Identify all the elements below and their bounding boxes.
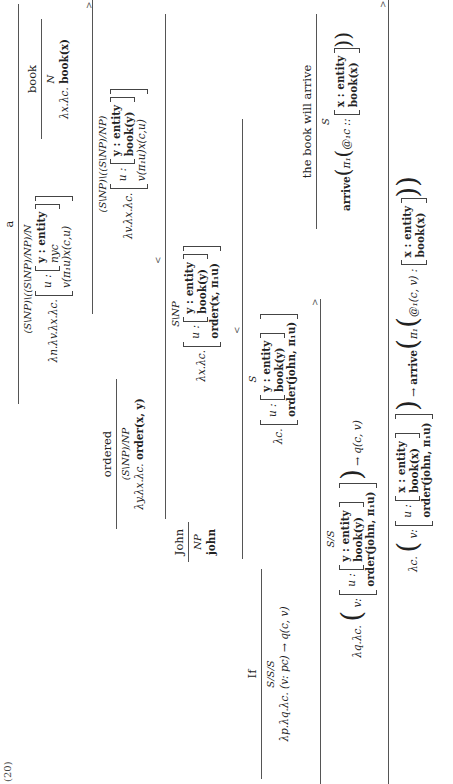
lex-a-body: (S\NP)\((S\NP)/NP)/N λn.λv.λx.λc. u : y … — [20, 154, 73, 404]
rule-john-ordered — [242, 119, 243, 559]
rule-label-backward-2: < — [232, 326, 242, 334]
step-if-clause: S/S λq.λc. ( v: u : y : entitybook(y) or… — [323, 304, 377, 774]
lex-rule-ordered — [116, 379, 117, 529]
left-bracket — [35, 291, 73, 296]
category-ordered: (S\NP)/NP — [120, 379, 131, 529]
word-a: a — [2, 24, 16, 424]
lex-rule-a — [18, 4, 19, 404]
derivation-page: (20) a (S\NP)\((S\NP)/NP)/N λn.λv.λx.λc.… — [0, 0, 453, 784]
lex-john-body: NP john — [190, 522, 217, 562]
lex-john: John — [172, 522, 186, 562]
lex-the-book-will-arrive: the book will arrive — [300, 14, 314, 229]
lex-arrive-body: S arrive(π₁(@₁c :: x : entitybook(x))) — [318, 14, 360, 229]
lex-ordered-body: (S\NP)/NP λy.λx.λc. order(x, y) — [118, 379, 145, 529]
step-ordered-a-book: S\NP λx.λc. u : y : entitybook(y) order(… — [168, 194, 221, 434]
lex-ordered: ordered — [100, 379, 114, 529]
lex-book: book — [25, 19, 39, 139]
record-type: u : y : entitynyc v(π₁u)x(c,u) — [35, 196, 73, 296]
lex-rule-if — [261, 569, 262, 779]
rule-label-backward: < — [153, 256, 163, 264]
right-bracket — [35, 196, 73, 201]
word-if: If — [245, 569, 259, 779]
lex-rule-john — [188, 522, 189, 562]
lex-rule-arrive — [316, 14, 317, 229]
step-final: λc. ( v: u : x : entitybook(x) order(joh… — [392, 4, 433, 744]
sem-prefix: λn.λv.λx.λc. — [47, 299, 59, 362]
word-book: book — [25, 19, 39, 139]
category-a: (S\NP)\((S\NP)/NP)/N — [22, 154, 33, 404]
category-book: N — [45, 19, 56, 139]
lex-if-body: S/S/S λp.λq.λc. (v: pc) → q(c, v) — [263, 569, 290, 779]
semantics-book: λx.λc. book(x) — [58, 19, 70, 139]
word-ordered: ordered — [100, 379, 114, 529]
phrase-the-book-will-arrive: the book will arrive — [300, 14, 314, 229]
lex-a: a — [2, 24, 16, 424]
example-number: (20) — [2, 761, 13, 782]
rule-label-forward-2: > — [310, 298, 320, 306]
semantics-a: λn.λv.λx.λc. u : y : entitynyc v(π₁u)x(c… — [35, 154, 73, 404]
rule-label-forward-3: > — [378, 0, 388, 8]
step-john-ordered-a-book: S λc. u : y : entitybook(y) order(john, … — [245, 274, 298, 484]
lex-rule-book — [41, 19, 42, 139]
rule-final — [388, 0, 389, 784]
lex-book-body: N λx.λc. book(x) — [43, 19, 70, 139]
rule-if-clause — [320, 299, 321, 784]
category-a-book: (S\NP)\((S\NP)/NP) — [97, 14, 108, 314]
word-john: John — [172, 522, 186, 562]
rule-label-forward: > — [84, 1, 94, 9]
step-a-book: (S\NP)\((S\NP)/NP) λv.λx.λc. u : y : ent… — [95, 14, 148, 314]
lex-if: If — [245, 569, 259, 779]
rule-a-book — [92, 0, 93, 314]
rule-ordered-a-book — [165, 14, 166, 519]
